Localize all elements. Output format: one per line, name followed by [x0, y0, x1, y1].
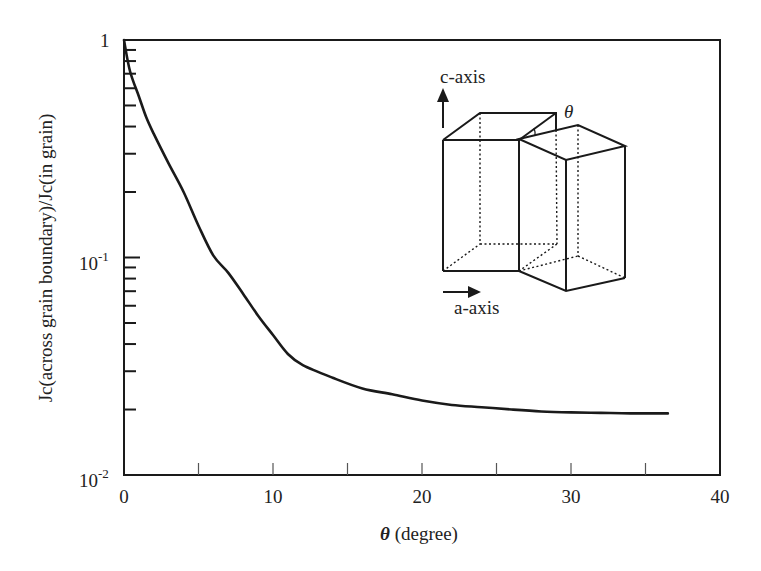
grain-right [519, 125, 625, 291]
x-tick-label-0: 0 [119, 486, 129, 507]
a-axis-label: a-axis [454, 297, 499, 318]
chart-canvas: 1 10 -1 10 -2 0 10 20 30 40 θ (degree) J… [0, 0, 761, 571]
y-tick-label-1: 1 [100, 30, 110, 51]
svg-text:10: 10 [79, 470, 98, 491]
x-axis-ticks [199, 463, 646, 475]
data-series-line [124, 40, 668, 413]
theta-label: θ [564, 101, 573, 122]
y-axis-title: Jc(across grain boundary)/Jc(in grain) [35, 114, 57, 403]
x-tick-label-30: 30 [562, 486, 581, 507]
grain-left [443, 113, 556, 271]
x-tick-label-40: 40 [711, 486, 730, 507]
grain-right-hidden-edges [519, 125, 625, 278]
c-axis-arrow-icon [437, 88, 449, 128]
x-tick-label-20: 20 [413, 486, 432, 507]
y-tick-label-0.1: 10 -1 [79, 249, 109, 274]
y-axis-ticks [124, 50, 140, 475]
inset-grain-diagram [437, 88, 625, 298]
x-axis-title: θ (degree) [380, 523, 458, 545]
svg-text:-2: -2 [98, 466, 109, 481]
x-tick-label-10: 10 [264, 486, 283, 507]
y-tick-label-0.01: 10 -2 [79, 466, 109, 491]
c-axis-label: c-axis [440, 66, 485, 87]
svg-text:10: 10 [79, 253, 98, 274]
grain-left-hidden-edges [443, 113, 557, 271]
svg-text:-1: -1 [98, 249, 109, 264]
